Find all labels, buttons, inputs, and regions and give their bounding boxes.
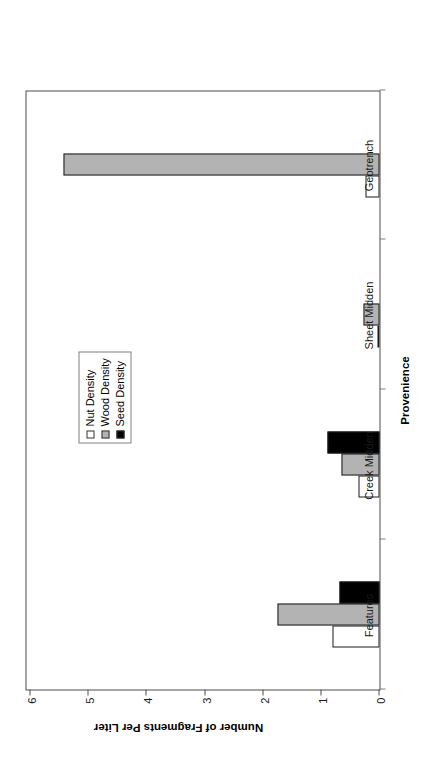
category-label-features: Features <box>362 593 374 636</box>
category-tick-end <box>379 89 385 90</box>
legend-label-wood-density: Wood Density <box>98 358 111 426</box>
value-tick-6 <box>29 689 30 695</box>
legend-label-nut-density: Nut Density <box>83 369 96 426</box>
value-tick-label-3: 3 <box>200 697 212 725</box>
value-axis-title: Number of Fragments Per Liter <box>18 721 338 733</box>
value-tick-label-2: 2 <box>258 697 270 725</box>
value-tick-5 <box>87 689 88 695</box>
value-tick-label-6: 6 <box>25 697 37 725</box>
category-label-creek-midden: Creek Midden <box>362 431 374 499</box>
bar-group-geotrench <box>26 90 379 239</box>
legend-swatch-wood-density-icon <box>101 430 109 438</box>
category-tick-2 <box>379 388 385 389</box>
legend-swatch-seed-density-icon <box>116 430 124 438</box>
category-tick-start <box>379 688 385 689</box>
legend-label-seed-density: Seed Density <box>113 361 126 426</box>
legend-item-nut-density[interactable]: Nut Density <box>83 358 96 438</box>
category-tick-3 <box>379 238 385 239</box>
legend-item-wood-density[interactable]: Wood Density <box>98 358 111 438</box>
bar-chart-figure: Number of Fragments Per Liter 0 1 2 3 4 … <box>0 0 447 765</box>
chart-legend: Nut Density Wood Density Seed Density <box>78 351 131 443</box>
value-tick-label-4: 4 <box>141 697 153 725</box>
chart-rotation-wrapper: Number of Fragments Per Liter 0 1 2 3 4 … <box>0 0 447 765</box>
category-axis-title: Provenience <box>398 90 410 690</box>
value-tick-label-0: 0 <box>374 697 386 725</box>
category-label-geotrench: Geotrench <box>362 139 374 190</box>
bar-group-features <box>26 539 379 689</box>
value-tick-3 <box>204 689 205 695</box>
legend-swatch-nut-density-icon <box>86 430 94 438</box>
bar-geotrench-wood[interactable] <box>63 154 379 176</box>
value-tick-4 <box>145 689 146 695</box>
value-tick-1 <box>320 689 321 695</box>
bar-sheet-midden-nut[interactable] <box>377 325 379 347</box>
value-tick-2 <box>262 689 263 695</box>
category-label-sheet-midden: Sheet Midden <box>362 281 374 349</box>
value-tick-0 <box>378 689 379 695</box>
value-tick-label-1: 1 <box>316 697 328 725</box>
legend-item-seed-density[interactable]: Seed Density <box>113 358 126 438</box>
value-tick-label-5: 5 <box>83 697 95 725</box>
category-tick-1 <box>379 538 385 539</box>
